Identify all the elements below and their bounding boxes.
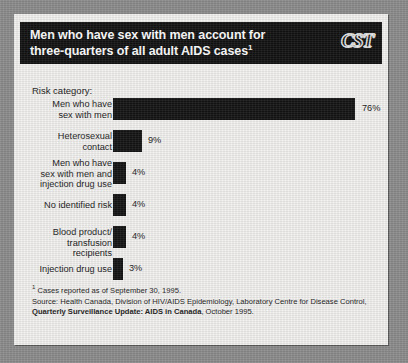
axis-label-risk-category: Risk category:: [32, 85, 92, 96]
bar-injection-drug-use: [113, 258, 123, 280]
label-line: Injection drug use: [39, 264, 112, 274]
cst-logo: CST: [341, 30, 373, 52]
bar-category-label: Men who have sex with men and injection …: [26, 158, 112, 190]
label-line: Men who have: [52, 99, 112, 109]
chart-row: Heterosexual contact 9%: [14, 130, 388, 152]
figure-header-bar: Men who have sex with men account for th…: [20, 22, 382, 64]
figure-card: Men who have sex with men account for th…: [14, 14, 388, 345]
label-line: Blood product/: [53, 227, 112, 237]
bar-value-label: 4%: [132, 167, 145, 177]
label-line: No identified risk: [44, 200, 112, 210]
title-line-2: three-quarters of all adult AIDS cases: [30, 44, 248, 58]
chart-row: No identified risk 4%: [14, 194, 388, 216]
label-line: Men who have: [52, 158, 112, 168]
footnote-line-2: Source: Health Canada, Division of HIV/A…: [32, 297, 377, 308]
bar-blood-product-transfusion-recipients: [113, 226, 126, 248]
bar-no-identified-risk: [113, 194, 126, 216]
footnote-line-1: 1 Cases reported as of September 30, 199…: [32, 286, 377, 297]
chart-row: Men who have sex with men and injection …: [14, 162, 388, 184]
footnote-marker: 1: [32, 284, 35, 290]
bar-category-label: Blood product/ transfusion recipients: [26, 227, 112, 259]
bar-chart: Men who have sex with men 76% Heterosexu…: [14, 98, 388, 278]
source-publication-title: Quarterly Surveillance Update: AIDS in C…: [32, 307, 201, 316]
page-title: Men who have sex with men account for th…: [30, 27, 320, 59]
bar-category-label: No identified risk: [26, 200, 112, 211]
label-line: transfusion recipients: [67, 238, 112, 259]
bar-value-label: 9%: [148, 135, 161, 145]
bar-heterosexual-contact: [113, 130, 142, 152]
label-line: contact: [82, 142, 112, 152]
bar-value-label: 4%: [132, 199, 145, 209]
chart-row: Blood product/ transfusion recipients 4%: [14, 226, 388, 248]
chart-row: Injection drug use 3%: [14, 258, 388, 280]
bar-value-label: 3%: [129, 263, 142, 273]
bar-msm-and-injection-drug-use: [113, 162, 126, 184]
bar-value-label: 76%: [362, 103, 380, 113]
label-line: injection drug use: [40, 179, 112, 189]
title-line-1: Men who have sex with men account for: [30, 28, 265, 42]
label-line: Heterosexual: [58, 131, 112, 141]
footnote-line-3: Quarterly Surveillance Update: AIDS in C…: [32, 307, 377, 318]
footnote-text: Cases reported as of September 30, 1995.: [37, 286, 181, 295]
bar-men-who-have-sex-with-men: [113, 98, 355, 120]
bar-value-label: 4%: [132, 231, 145, 241]
bar-category-label: Injection drug use: [26, 264, 112, 275]
chart-row: Men who have sex with men 76%: [14, 98, 388, 120]
title-footnote-marker: 1: [248, 43, 252, 52]
footnote-block: 1 Cases reported as of September 30, 199…: [32, 286, 377, 318]
bar-category-label: Men who have sex with men: [26, 99, 112, 120]
label-line: sex with men: [58, 110, 112, 120]
bar-category-label: Heterosexual contact: [26, 131, 112, 152]
figure-page: Men who have sex with men account for th…: [0, 0, 408, 363]
source-publication-date: , October 1995.: [201, 307, 253, 316]
label-line: sex with men and: [41, 169, 113, 179]
